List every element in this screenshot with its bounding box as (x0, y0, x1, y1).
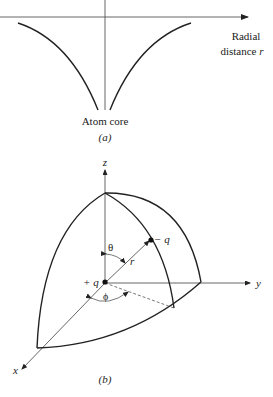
atom-core-label: Atom core (82, 115, 129, 127)
r-label: r (130, 255, 135, 267)
caption-b: (b) (99, 373, 112, 386)
projection-line (105, 283, 174, 308)
potential-curve-left (18, 23, 98, 110)
octant-left-arc (37, 193, 105, 348)
positive-charge-dot (102, 279, 107, 284)
phi-arc (91, 292, 128, 301)
panel-b: z y x θ ϕ r + q − q (b) (12, 156, 261, 386)
octant-bottom-arc (37, 282, 201, 348)
radial-axis-label-line2: distance r (220, 45, 264, 57)
negative-charge-dot (148, 237, 153, 242)
x-axis (22, 283, 105, 369)
theta-arc (106, 254, 125, 263)
potential-curve-right (110, 23, 191, 110)
figure: Radial distance r Atom core (a) z y x (0, 0, 273, 397)
positive-charge-label: + q (83, 276, 99, 288)
radial-axis-label-line1: Radial (232, 30, 261, 42)
theta-label: θ (108, 241, 113, 253)
panel-a: Radial distance r Atom core (a) (0, 0, 264, 144)
phi-label: ϕ (103, 291, 108, 302)
y-axis-label: y (255, 277, 261, 289)
x-axis-label: x (12, 364, 18, 376)
z-axis-label: z (102, 156, 108, 168)
negative-charge-label: − q (154, 233, 170, 245)
caption-a: (a) (99, 131, 112, 144)
